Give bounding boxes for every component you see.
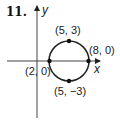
x-axis-label: x [93, 62, 101, 76]
point-right [86, 59, 90, 63]
point-label-left: (2, 0) [25, 65, 51, 77]
point-label-top: (5, 3) [55, 24, 81, 36]
point-bottom [67, 79, 71, 83]
point-label-bottom: (5, −3) [54, 85, 86, 97]
circle-graph-figure: 11. y x (5, 3) (8, 0) (2, 0) (5, −3) [0, 0, 120, 122]
point-label-right: (8, 0) [89, 44, 115, 56]
point-left [47, 59, 51, 63]
point-top [67, 39, 71, 43]
problem-number: 11. [6, 5, 27, 19]
y-axis-label: y [41, 3, 49, 17]
